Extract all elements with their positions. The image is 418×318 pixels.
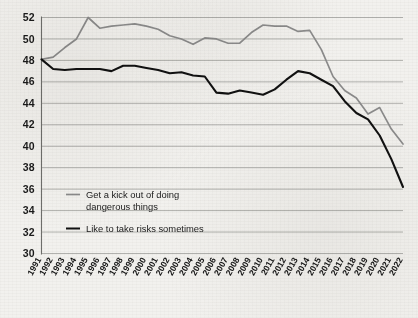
y-tick-label: 40 — [23, 140, 35, 152]
legend-label-kick-line1: Get a kick out of doing — [86, 189, 179, 200]
y-tick-label: 48 — [23, 54, 35, 66]
y-tick-label: 34 — [23, 204, 35, 216]
y-tick-label: 38 — [23, 161, 35, 173]
chart-container: 303234363840424446485052 199119921993199… — [0, 0, 418, 318]
chart-legend: Get a kick out of doing dangerous things… — [66, 189, 204, 234]
y-tick-label: 44 — [23, 97, 35, 109]
y-tick-label: 50 — [23, 33, 35, 45]
series-line-group — [42, 18, 404, 187]
y-tick-label: 32 — [23, 226, 35, 238]
x-tick-label-group: 1991199219931994199519961997199819992000… — [25, 255, 405, 277]
y-tick-label: 52 — [23, 11, 35, 23]
y-tick-label: 42 — [23, 118, 35, 130]
y-tick-label: 46 — [23, 75, 35, 87]
gridline-group — [42, 18, 404, 254]
line-chart: 303234363840424446485052 199119921993199… — [0, 0, 418, 318]
legend-label-risks-line1: Like to take risks sometimes — [86, 223, 204, 234]
y-tick-label: 36 — [23, 183, 35, 195]
legend-label-kick-line2: dangerous things — [86, 201, 158, 212]
y-tick-label-group: 303234363840424446485052 — [23, 11, 35, 259]
